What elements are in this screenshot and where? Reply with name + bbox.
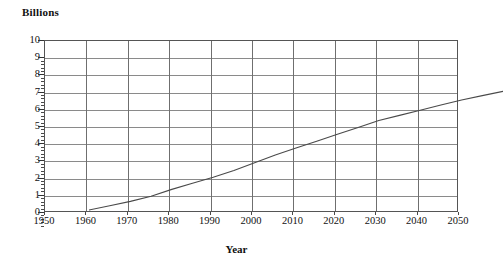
y-axis-minor-tick xyxy=(41,133,44,134)
x-axis-tick-label: 1980 xyxy=(146,216,190,227)
y-axis-minor-tick xyxy=(41,174,44,175)
y-axis-minor-tick xyxy=(41,61,44,62)
y-axis-title: Billions xyxy=(22,6,59,18)
y-axis-major-tick xyxy=(38,74,44,75)
y-axis-major-tick xyxy=(38,57,44,58)
x-axis-tick-mark xyxy=(251,212,252,215)
y-axis-minor-tick xyxy=(41,68,44,69)
x-axis-tick-mark xyxy=(292,212,293,215)
y-axis-minor-tick xyxy=(41,85,44,86)
y-axis-minor-tick xyxy=(41,184,44,185)
gridline-horizontal xyxy=(45,75,457,76)
y-axis-minor-tick xyxy=(41,112,44,113)
y-axis-minor-tick xyxy=(41,147,44,148)
y-axis-major-tick xyxy=(38,143,44,144)
x-axis-tick-label: 2010 xyxy=(270,216,314,227)
y-axis-minor-tick xyxy=(41,209,44,210)
y-axis-minor-tick xyxy=(41,150,44,151)
y-axis-minor-tick xyxy=(41,119,44,120)
y-axis-major-tick xyxy=(38,92,44,93)
y-axis-major-tick xyxy=(38,178,44,179)
y-axis-minor-tick xyxy=(41,164,44,165)
y-axis-minor-tick xyxy=(41,140,44,141)
x-axis-tick-label: 1950 xyxy=(22,216,66,227)
y-axis-minor-tick xyxy=(41,95,44,96)
y-axis-minor-tick xyxy=(41,71,44,72)
x-axis-title-text: Year xyxy=(226,243,248,255)
y-axis-minor-tick xyxy=(41,98,44,99)
y-axis-minor-tick xyxy=(41,188,44,189)
y-axis-minor-tick xyxy=(41,198,44,199)
x-axis-tick-label: 1960 xyxy=(63,216,107,227)
x-axis-tick-mark xyxy=(44,212,45,215)
y-axis-minor-tick xyxy=(41,171,44,172)
population-curve xyxy=(89,81,503,253)
y-axis-minor-tick xyxy=(41,181,44,182)
y-axis-minor-tick xyxy=(41,154,44,155)
y-axis-minor-tick xyxy=(41,81,44,82)
y-axis-minor-tick xyxy=(41,64,44,65)
x-axis-tick-mark xyxy=(375,212,376,215)
x-axis-title: Year xyxy=(0,243,491,255)
x-axis-tick-mark xyxy=(210,212,211,215)
plot-area xyxy=(44,40,458,212)
y-axis-minor-tick xyxy=(41,167,44,168)
y-axis-minor-tick xyxy=(41,191,44,192)
y-axis-major-tick xyxy=(38,160,44,161)
y-axis-minor-tick xyxy=(41,205,44,206)
x-axis-tick-mark xyxy=(417,212,418,215)
y-axis-major-tick xyxy=(38,40,44,41)
y-axis-major-tick xyxy=(38,126,44,127)
x-axis-tick-mark xyxy=(168,212,169,215)
y-axis-minor-tick xyxy=(41,157,44,158)
x-axis-tick-label: 1970 xyxy=(105,216,149,227)
y-axis-major-tick xyxy=(38,109,44,110)
x-axis-tick-label: 2050 xyxy=(436,216,480,227)
x-axis-tick-label: 2020 xyxy=(312,216,356,227)
y-axis-minor-tick xyxy=(41,116,44,117)
y-axis-major-tick xyxy=(38,195,44,196)
y-axis-minor-tick xyxy=(41,102,44,103)
y-axis-minor-tick xyxy=(41,129,44,130)
x-axis-tick-label: 2040 xyxy=(395,216,439,227)
y-axis-minor-tick xyxy=(41,78,44,79)
y-axis-minor-tick xyxy=(41,136,44,137)
gridline-vertical xyxy=(86,41,87,211)
x-axis-tick-mark xyxy=(458,212,459,215)
y-axis-tick-marks xyxy=(0,40,44,212)
x-axis-tick-label: 2000 xyxy=(229,216,273,227)
x-axis-tick-mark xyxy=(85,212,86,215)
x-axis-tick-label: 1990 xyxy=(188,216,232,227)
y-axis-minor-tick xyxy=(41,105,44,106)
y-axis-minor-tick xyxy=(41,123,44,124)
y-axis-minor-tick xyxy=(41,88,44,89)
x-axis-tick-label: 2030 xyxy=(353,216,397,227)
x-axis-tick-mark xyxy=(127,212,128,215)
y-axis-minor-tick xyxy=(41,202,44,203)
gridline-horizontal xyxy=(45,58,457,59)
x-axis-tick-mark xyxy=(334,212,335,215)
